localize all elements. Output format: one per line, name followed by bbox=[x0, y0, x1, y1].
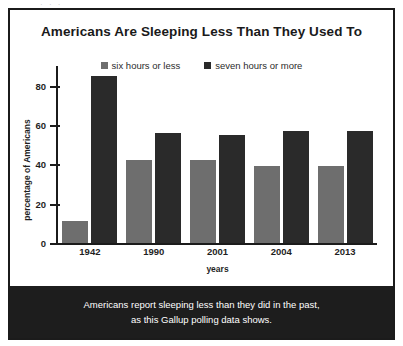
x-axis-tick-labels: 19421990200120042013 bbox=[58, 246, 377, 257]
bar[interactable] bbox=[219, 135, 245, 243]
bar[interactable] bbox=[155, 133, 181, 243]
bar[interactable] bbox=[190, 160, 216, 243]
bar[interactable] bbox=[91, 76, 117, 243]
figure-caption-banner: Americans report sleeping less than they… bbox=[10, 286, 393, 338]
bar[interactable] bbox=[126, 160, 152, 243]
caption-line-1: Americans report sleeping less than they… bbox=[83, 299, 319, 311]
scan-top-bleed-text: · · · bbox=[0, 0, 403, 8]
bar[interactable] bbox=[318, 166, 344, 243]
y-axis-tick-label: 40 bbox=[10, 159, 46, 170]
bar[interactable] bbox=[283, 131, 309, 243]
bar-group bbox=[186, 66, 250, 243]
y-axis-tick-label: 60 bbox=[10, 120, 46, 131]
bar-groups bbox=[58, 66, 377, 243]
x-axis-tick-label: 2004 bbox=[249, 246, 313, 257]
x-axis-line bbox=[56, 243, 377, 245]
bar-group bbox=[313, 66, 377, 243]
x-axis-tick-label: 2013 bbox=[313, 246, 377, 257]
bar[interactable] bbox=[347, 131, 373, 243]
x-axis-tick-label: 2001 bbox=[186, 246, 250, 257]
x-axis-title: years bbox=[58, 264, 377, 274]
x-axis-tick-label: 1990 bbox=[122, 246, 186, 257]
bar-group bbox=[249, 66, 313, 243]
y-axis-tick-label: 20 bbox=[10, 199, 46, 210]
chart-figure: Americans Are Sleeping Less Than They Us… bbox=[8, 8, 395, 340]
bar-group bbox=[58, 66, 122, 243]
y-axis-tick-label: 0 bbox=[10, 238, 46, 249]
bar-group bbox=[122, 66, 186, 243]
x-axis-tick-label: 1942 bbox=[58, 246, 122, 257]
y-axis-tick bbox=[50, 243, 60, 245]
y-axis-tick-label: 80 bbox=[10, 81, 46, 92]
caption-line-2: as this Gallup polling data shows. bbox=[131, 314, 272, 326]
bar[interactable] bbox=[254, 166, 280, 243]
bar[interactable] bbox=[62, 221, 88, 243]
